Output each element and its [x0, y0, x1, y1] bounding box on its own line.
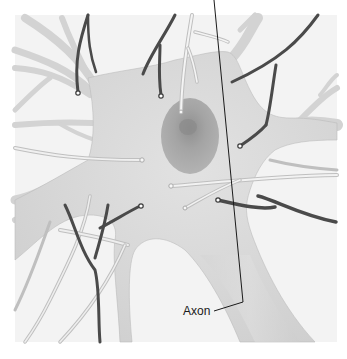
- neuron-drawing: [0, 0, 347, 359]
- nucleolus: [179, 119, 197, 135]
- neuron-illustration: Axon: [0, 0, 347, 359]
- axon-label: Axon: [183, 305, 210, 317]
- nucleus: [161, 98, 219, 174]
